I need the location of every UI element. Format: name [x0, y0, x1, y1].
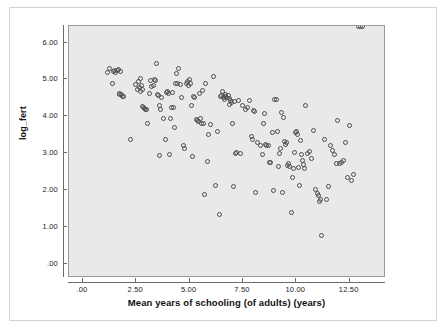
- scatter-point: [182, 146, 187, 151]
- y-tick-label: 1.00: [24, 222, 58, 231]
- x-tick-mark: [189, 278, 190, 282]
- scatter-point: [280, 190, 285, 195]
- y-tick-mark: [63, 42, 67, 43]
- y-axis-line: [63, 25, 64, 277]
- y-tick-label: 4.00: [24, 111, 58, 120]
- scatter-point: [322, 137, 327, 142]
- scatter-point: [268, 160, 273, 165]
- scatter-point: [266, 143, 271, 148]
- scatter-point: [302, 166, 307, 171]
- scatter-point: [121, 94, 126, 99]
- scatter-point: [252, 109, 257, 114]
- scatter-point: [201, 121, 206, 126]
- y-tick-label: .00: [24, 258, 58, 267]
- scatter-point: [151, 83, 156, 88]
- scatter-point: [118, 69, 123, 74]
- scatter-point: [231, 184, 236, 189]
- scatter-point: [154, 61, 159, 66]
- y-tick-label: 5.00: [24, 74, 58, 83]
- scatter-point: [347, 123, 352, 128]
- scatter-point: [311, 128, 316, 133]
- scatter-point: [245, 105, 250, 110]
- scatter-point: [167, 152, 172, 157]
- scatter-point: [153, 78, 158, 83]
- x-tick-mark: [349, 278, 350, 282]
- scatter-point: [205, 159, 210, 164]
- scatter-point: [307, 149, 312, 154]
- scatter-point: [303, 103, 308, 108]
- y-tick-label: 3.00: [24, 148, 58, 157]
- scatter-point: [198, 116, 203, 121]
- x-tick-label: 2.50: [128, 285, 143, 294]
- scatter-point: [171, 105, 176, 110]
- scatter-point: [250, 137, 255, 142]
- scatter-point: [215, 129, 220, 134]
- scatter-point: [211, 74, 216, 79]
- scatter-point: [172, 125, 177, 130]
- x-tick-label: .00: [76, 285, 87, 294]
- scatter-point: [291, 166, 296, 171]
- scatter-point: [105, 70, 110, 75]
- scatter-point: [253, 190, 258, 195]
- scatter-point: [189, 103, 194, 108]
- x-tick-mark: [242, 278, 243, 282]
- scatter-point: [349, 178, 354, 183]
- scatter-point: [157, 153, 162, 158]
- scatter-point: [161, 116, 166, 121]
- scatter-point: [278, 146, 283, 151]
- y-tick-mark: [63, 152, 67, 153]
- scatter-point: [158, 107, 163, 112]
- x-axis-line: [68, 282, 385, 283]
- scatter-point: [110, 81, 115, 86]
- scatter-point: [341, 158, 346, 163]
- scatter-point: [261, 121, 266, 126]
- scatter-point: [298, 138, 303, 143]
- scatter-point: [176, 66, 181, 71]
- scatter-point: [289, 210, 294, 215]
- scatter-point: [290, 175, 295, 180]
- scatter-point: [206, 132, 211, 137]
- scatter-point: [213, 183, 218, 188]
- scatter-point: [318, 197, 323, 202]
- plot-area: [68, 25, 385, 277]
- scatter-point: [275, 129, 280, 134]
- scatter-point: [163, 137, 168, 142]
- x-tick-mark: [295, 278, 296, 282]
- x-axis-title: Mean years of schooling (of adults) (yea…: [68, 297, 385, 308]
- x-tick-label: 5.00: [181, 285, 196, 294]
- scatter-point: [271, 188, 276, 193]
- scatter-point: [170, 90, 175, 95]
- scatter-point: [144, 107, 149, 112]
- scatter-point: [200, 88, 205, 93]
- scatter-point: [202, 192, 207, 197]
- scatter-point: [296, 165, 301, 170]
- scatter-point: [208, 122, 213, 127]
- scatter-point: [236, 98, 241, 103]
- scatter-point: [319, 233, 324, 238]
- scatter-point: [238, 151, 243, 156]
- scatter-point: [343, 140, 348, 145]
- scatter-point: [277, 151, 282, 156]
- y-axis-title: log_fert: [18, 106, 28, 140]
- scatter-point: [190, 154, 195, 159]
- scatter-point: [258, 143, 263, 148]
- scatter-point: [332, 152, 337, 157]
- x-tick-label: 10.00: [285, 285, 305, 294]
- scatter-point: [192, 95, 197, 100]
- scatter-point: [295, 132, 300, 137]
- scatter-point: [230, 121, 235, 126]
- scatter-point: [178, 82, 183, 87]
- y-tick-mark: [63, 226, 67, 227]
- scatter-point: [309, 156, 314, 161]
- scatter-point: [128, 137, 133, 142]
- scatter-point: [297, 183, 302, 188]
- x-tick-label: 12.50: [339, 285, 359, 294]
- y-tick-label: 6.00: [24, 37, 58, 46]
- scatter-point: [284, 140, 289, 145]
- scatter-point: [203, 81, 208, 86]
- scatter-point: [360, 25, 365, 29]
- scatter-point: [168, 116, 173, 121]
- scatter-point: [326, 184, 331, 189]
- scatter-point: [159, 95, 164, 100]
- scatter-point: [262, 111, 267, 116]
